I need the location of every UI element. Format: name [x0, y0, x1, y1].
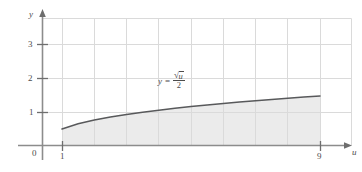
x-axis-label: u: [352, 148, 357, 157]
equation-equals-sign: =: [164, 77, 171, 86]
x-tick-label-9: 9: [317, 152, 322, 161]
graph-figure: y u 0 1 2 3 1 9 y = √u 2: [0, 0, 362, 172]
y-tick-label-3: 3: [28, 40, 33, 49]
equation-numerator: √u: [173, 71, 185, 81]
x-tick-label-1: 1: [60, 152, 65, 161]
radicand: u: [179, 71, 184, 81]
curve-equation-annotation: y = √u 2: [158, 71, 185, 91]
origin-tick-label: 0: [32, 149, 37, 158]
y-tick-label-2: 2: [28, 74, 33, 83]
equation-denominator: 2: [176, 81, 182, 90]
equation-fraction: √u 2: [173, 71, 185, 91]
y-axis: [39, 9, 46, 160]
y-tick-label-1: 1: [29, 108, 34, 117]
square-root-icon: √u: [174, 71, 184, 81]
y-axis-label: y: [29, 10, 33, 19]
equation-lhs: y: [158, 77, 162, 86]
